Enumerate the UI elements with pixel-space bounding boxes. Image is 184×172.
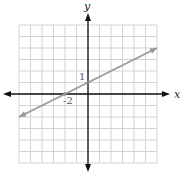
coordinate-plane: y x 1 -2 [0,0,184,172]
intercept-point [86,81,90,85]
x-axis-left-arrow-icon [3,91,11,97]
y-axis-up-arrow-icon [85,13,91,21]
y-axis-label: y [83,0,91,13]
x-axis-right-arrow-icon [162,91,170,97]
x-intercept-label: -2 [63,95,73,106]
y-axis-down-arrow-icon [85,164,91,172]
y-intercept-label: 1 [79,71,85,82]
x-axis-label: x [174,88,181,101]
